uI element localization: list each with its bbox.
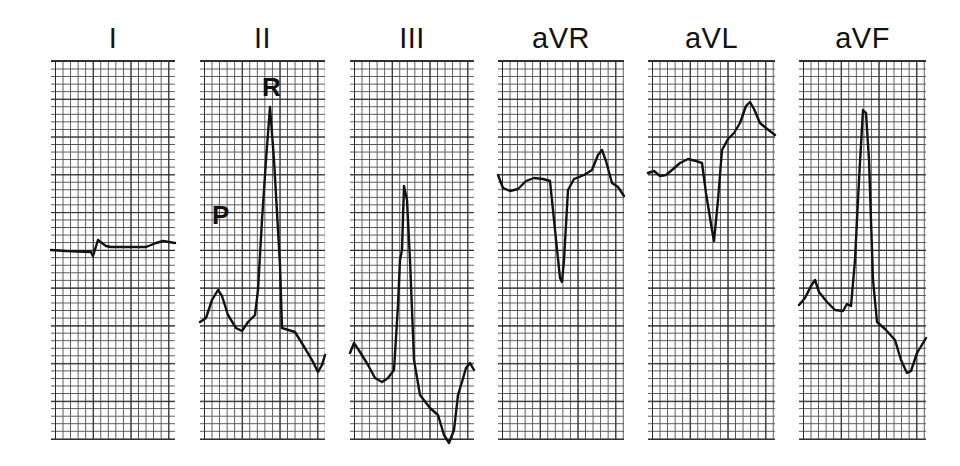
lead-title: aVR: [498, 22, 624, 54]
ecg-trace: [51, 60, 175, 466]
lead-title: III: [350, 22, 474, 54]
ecg-trace: [648, 60, 775, 466]
lead-III-panel: III: [350, 0, 474, 466]
lead-II-panel: II P R: [200, 0, 325, 466]
ecg-trace: [799, 60, 926, 466]
ecg-trace: [200, 60, 325, 466]
p-wave-label: P: [212, 200, 229, 231]
lead-title: II: [200, 22, 325, 54]
ecg-trace: [498, 60, 624, 466]
lead-aVL-panel: aVL: [648, 0, 775, 466]
r-wave-label: R: [262, 72, 281, 103]
ecg-trace: [350, 60, 474, 466]
lead-aVR-panel: aVR: [498, 0, 624, 466]
lead-title: aVL: [648, 22, 775, 54]
lead-aVF-panel: aVF: [799, 0, 926, 466]
lead-title: I: [51, 22, 175, 54]
lead-title: aVF: [799, 22, 926, 54]
lead-I-panel: I: [51, 0, 175, 466]
